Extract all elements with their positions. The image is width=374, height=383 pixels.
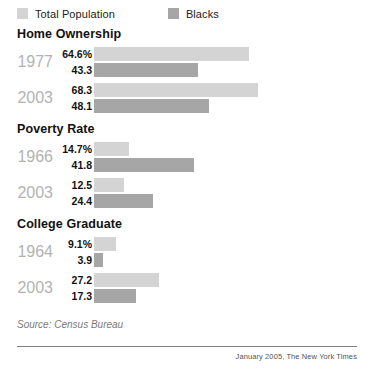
bar [94, 63, 198, 77]
bar-group [94, 177, 374, 209]
chart-container: Total Population Blacks Home Ownership19… [0, 0, 374, 383]
bar-group [94, 46, 374, 78]
bar-value-label: 64.6% [62, 46, 92, 62]
year-group: 197764.6%43.3 [0, 45, 374, 79]
year-group: 200312.524.4 [0, 176, 374, 210]
chart-section: Poverty Rate196614.7%41.8200312.524.4 [0, 122, 374, 210]
bar-group [94, 236, 374, 268]
bar-row [94, 157, 374, 173]
bar-value-label: 3.9 [77, 252, 92, 268]
value-labels: 9.1%3.9 [62, 236, 94, 268]
bar-value-label: 24.4 [72, 193, 92, 209]
bar-row [94, 62, 374, 78]
year-label: 1977 [0, 53, 62, 71]
bar-row [94, 193, 374, 209]
value-labels: 12.524.4 [62, 177, 94, 209]
legend-item-total-population: Total Population [17, 8, 115, 20]
bar-row [94, 141, 374, 157]
bar [94, 83, 258, 97]
bar [94, 237, 116, 251]
bar-row [94, 98, 374, 114]
source-note: Source: Census Bureau [0, 319, 374, 330]
bar-row [94, 46, 374, 62]
value-labels: 68.348.1 [62, 82, 94, 114]
value-labels: 27.217.3 [62, 272, 94, 304]
credit-line: January 2005, The New York Times [0, 352, 374, 361]
bar-row [94, 236, 374, 252]
chart-section: College Graduate19649.1%3.9200327.217.3 [0, 217, 374, 305]
chart-section: Home Ownership197764.6%43.3200368.348.1 [0, 27, 374, 115]
chart-sections: Home Ownership197764.6%43.3200368.348.1P… [0, 27, 374, 305]
year-label: 1964 [0, 243, 62, 261]
bar-value-label: 27.2 [72, 272, 92, 288]
bar [94, 273, 159, 287]
legend-swatch-blacks [168, 8, 179, 19]
year-group: 200327.217.3 [0, 271, 374, 305]
section-title: Home Ownership [0, 27, 374, 41]
value-labels: 14.7%41.8 [62, 141, 94, 173]
bar-group [94, 272, 374, 304]
bar [94, 178, 124, 192]
bar-row [94, 177, 374, 193]
year-group: 196614.7%41.8 [0, 140, 374, 174]
bar-group [94, 82, 374, 114]
section-title: Poverty Rate [0, 122, 374, 136]
section-title: College Graduate [0, 217, 374, 231]
footer-divider [17, 346, 357, 347]
bar-value-label: 41.8 [72, 157, 92, 173]
bar-value-label: 68.3 [72, 82, 92, 98]
bar-row [94, 288, 374, 304]
year-label: 2003 [0, 279, 62, 297]
bar [94, 253, 103, 267]
legend-label-total-population: Total Population [35, 8, 115, 20]
bar [94, 142, 129, 156]
year-group: 200368.348.1 [0, 81, 374, 115]
bar [94, 194, 153, 208]
legend-label-blacks: Blacks [186, 8, 219, 20]
bar-group [94, 141, 374, 173]
bar [94, 47, 249, 61]
legend-swatch-total-population [17, 8, 28, 19]
bar-row [94, 252, 374, 268]
bar [94, 158, 194, 172]
bar [94, 289, 136, 303]
bar-value-label: 14.7% [62, 141, 92, 157]
value-labels: 64.6%43.3 [62, 46, 94, 78]
bar-value-label: 9.1% [68, 236, 92, 252]
year-label: 2003 [0, 89, 62, 107]
bar-value-label: 17.3 [72, 288, 92, 304]
legend-item-blacks: Blacks [168, 8, 219, 20]
bar-row [94, 82, 374, 98]
bar-value-label: 48.1 [72, 98, 92, 114]
bar [94, 99, 209, 113]
year-label: 1966 [0, 148, 62, 166]
bar-value-label: 12.5 [72, 177, 92, 193]
year-group: 19649.1%3.9 [0, 235, 374, 269]
bar-value-label: 43.3 [72, 62, 92, 78]
bar-row [94, 272, 374, 288]
year-label: 2003 [0, 184, 62, 202]
chart-legend: Total Population Blacks [0, 0, 374, 20]
